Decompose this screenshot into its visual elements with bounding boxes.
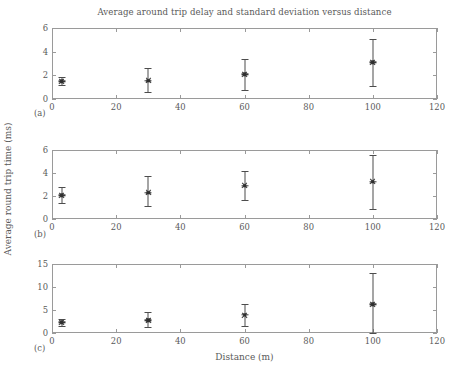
x-tick-label: 0 xyxy=(49,336,54,346)
data-marker-center xyxy=(243,313,246,316)
data-marker-center xyxy=(371,180,374,183)
error-bar-cap-upper xyxy=(145,176,152,177)
error-bar-cap-lower xyxy=(145,206,152,207)
x-tick-mark xyxy=(245,28,246,32)
y-tick-mark xyxy=(433,287,437,288)
y-tick-label: 5 xyxy=(43,305,48,315)
y-tick-label: 15 xyxy=(37,259,48,269)
x-tick-label: 20 xyxy=(111,222,122,232)
error-bar-cap-upper xyxy=(58,187,65,188)
x-tick-mark xyxy=(52,264,53,268)
x-tick-mark xyxy=(309,150,310,154)
x-tick-mark xyxy=(52,215,53,219)
error-bar-cap-lower xyxy=(241,200,248,201)
data-point xyxy=(56,316,68,328)
x-tick-mark xyxy=(180,150,181,154)
x-tick-mark xyxy=(309,95,310,99)
y-tick-mark xyxy=(433,99,437,100)
x-tick-mark xyxy=(116,264,117,268)
data-marker-center xyxy=(60,80,63,83)
x-tick-label: 40 xyxy=(175,336,186,346)
data-point xyxy=(367,176,379,188)
data-marker-center xyxy=(60,321,63,324)
x-tick-mark xyxy=(245,150,246,154)
y-tick-label: 0 xyxy=(43,94,48,104)
x-tick-label: 0 xyxy=(49,102,54,112)
x-tick-mark xyxy=(245,95,246,99)
x-tick-label: 80 xyxy=(303,336,314,346)
x-tick-label: 80 xyxy=(303,222,314,232)
x-tick-label: 60 xyxy=(239,222,250,232)
error-bar-cap-upper xyxy=(241,304,248,305)
x-tick-mark xyxy=(116,95,117,99)
x-tick-mark xyxy=(52,150,53,154)
x-tick-mark xyxy=(116,150,117,154)
x-tick-label: 100 xyxy=(365,336,381,346)
x-tick-mark xyxy=(180,264,181,268)
error-bar-cap-lower xyxy=(58,85,65,86)
x-tick-mark xyxy=(373,150,374,154)
y-tick-mark xyxy=(433,75,437,76)
x-tick-label: 60 xyxy=(239,336,250,346)
data-marker-center xyxy=(371,61,374,64)
x-tick-label: 40 xyxy=(175,222,186,232)
x-tick-mark xyxy=(373,215,374,219)
y-tick-label: 2 xyxy=(43,70,48,80)
x-tick-mark xyxy=(180,215,181,219)
y-tick-label: 10 xyxy=(37,282,48,292)
data-marker-center xyxy=(243,184,246,187)
data-marker-center xyxy=(243,72,246,75)
x-tick-mark xyxy=(52,329,53,333)
x-tick-mark xyxy=(116,215,117,219)
x-tick-mark xyxy=(309,329,310,333)
x-tick-label: 20 xyxy=(111,102,122,112)
data-point xyxy=(367,298,379,310)
x-tick-mark xyxy=(245,215,246,219)
x-tick-label: 80 xyxy=(303,102,314,112)
x-tick-mark xyxy=(309,28,310,32)
x-tick-mark xyxy=(116,329,117,333)
x-tick-mark xyxy=(180,329,181,333)
x-tick-mark xyxy=(309,215,310,219)
x-tick-label: 100 xyxy=(365,102,381,112)
x-tick-mark xyxy=(437,95,438,99)
data-marker-center xyxy=(60,194,63,197)
x-tick-mark xyxy=(373,95,374,99)
y-tick-label: 4 xyxy=(43,47,48,57)
y-tick-mark xyxy=(433,333,437,334)
error-bar-cap-lower xyxy=(241,326,248,327)
x-tick-mark xyxy=(245,329,246,333)
data-point xyxy=(239,309,251,321)
data-point xyxy=(239,68,251,80)
x-tick-mark xyxy=(309,264,310,268)
error-bar-cap-lower xyxy=(145,92,152,93)
error-bar-cap-lower xyxy=(369,333,376,334)
error-bar-cap-upper xyxy=(241,59,248,60)
y-tick-label: 0 xyxy=(43,328,48,338)
x-tick-mark xyxy=(245,264,246,268)
error-bar-cap-upper xyxy=(369,39,376,40)
error-bar-cap-upper xyxy=(241,171,248,172)
data-marker-center xyxy=(147,191,150,194)
y-tick-mark xyxy=(52,52,56,53)
x-tick-mark xyxy=(437,28,438,32)
y-tick-mark xyxy=(433,173,437,174)
x-tick-mark xyxy=(116,28,117,32)
y-axis-label: Average round trip time (ms) xyxy=(3,123,13,256)
y-tick-mark xyxy=(52,287,56,288)
x-axis-label: Distance (m) xyxy=(52,352,437,362)
x-tick-mark xyxy=(373,28,374,32)
data-point xyxy=(56,189,68,201)
chart-title: Average around trip delay and standard d… xyxy=(52,7,437,17)
data-point xyxy=(142,314,154,326)
data-point xyxy=(239,180,251,192)
x-tick-mark xyxy=(52,95,53,99)
data-point xyxy=(56,75,68,87)
panel-a-tag: (a) xyxy=(34,108,46,118)
panel-c-tag: (c) xyxy=(34,343,45,353)
error-bar-cap-upper xyxy=(145,312,152,313)
x-tick-label: 20 xyxy=(111,336,122,346)
y-tick-mark xyxy=(52,333,56,334)
y-tick-mark xyxy=(52,173,56,174)
x-tick-mark xyxy=(373,264,374,268)
